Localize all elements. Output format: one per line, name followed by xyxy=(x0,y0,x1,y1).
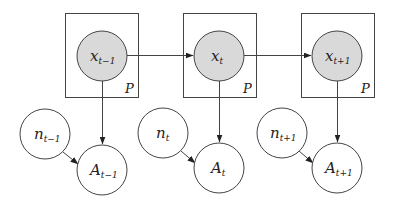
node-n-t: nt xyxy=(138,108,188,158)
node-n-t-plus-1: nt+1 xyxy=(257,108,307,158)
node-a-t: At xyxy=(194,143,244,193)
node-n-t-minus-1: nt−1 xyxy=(20,109,70,159)
graphical-model-diagram: P P P xt−1 xt xt+1 nt−1 nt nt+1 At−1 xyxy=(0,0,393,201)
node-x-t-plus-1: xt+1 xyxy=(312,31,362,81)
edge-n-t-to-a-t xyxy=(181,151,195,163)
node-x-t: xt xyxy=(194,31,244,81)
plate-label-t-plus-1: P xyxy=(360,81,370,96)
node-a-t-plus-1: At+1 xyxy=(312,143,362,193)
plate-label-t-minus-1: P xyxy=(124,81,134,96)
plate-label-t: P xyxy=(242,81,252,96)
edge-n-tp1-to-a-tp1 xyxy=(299,151,313,163)
edge-n-tm1-to-a-tm1 xyxy=(63,152,78,164)
node-a-t-minus-1: At−1 xyxy=(77,145,127,195)
node-x-t-minus-1: xt−1 xyxy=(77,31,127,81)
